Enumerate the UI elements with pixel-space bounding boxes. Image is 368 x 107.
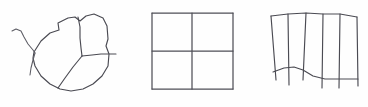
fence-lower-rail-wavy-path — [273, 67, 358, 79]
fence-bar-5-path — [339, 14, 340, 88]
fence-bar-3-path — [303, 13, 306, 80]
sketch-drawing-surface — [0, 0, 368, 107]
internal-divider-vertical-path — [78, 17, 82, 56]
figure-curved-fence — [271, 13, 358, 88]
fence-bar-2-path — [288, 14, 289, 85]
figure-irregular-blob — [12, 14, 116, 91]
internal-horizontal-with-right-tail-path — [82, 54, 116, 56]
fence-bar-4-path — [322, 14, 323, 88]
fence-bar-6-path — [357, 17, 358, 86]
sketch-canvas — [0, 0, 368, 107]
fence-top-rail-path — [271, 13, 357, 17]
figure-quadrant-square — [152, 13, 233, 89]
left-branch-tail-upper-path — [12, 29, 35, 53]
fence-bar-1-path — [271, 16, 276, 80]
internal-divider-diagonal-path — [58, 56, 82, 88]
outer-blob-outline-path — [33, 14, 109, 91]
